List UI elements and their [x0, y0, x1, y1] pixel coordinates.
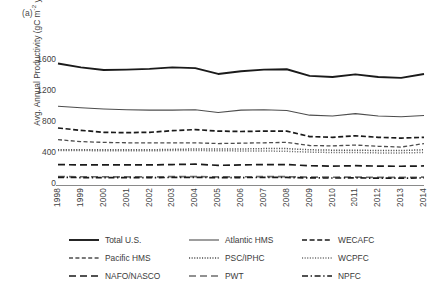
legend-label: Atlantic HMS: [225, 235, 273, 245]
legend-line-swatch: [68, 253, 100, 263]
chart-legend: Total U.S.Atlantic HMSWECAFCPacific HMSP…: [68, 231, 420, 285]
legend-line-swatch: [188, 253, 220, 263]
legend-label: WCPFC: [338, 253, 369, 263]
legend-item-npfc[interactable]: NPFC: [301, 271, 411, 281]
legend-label: Pacific HMS: [105, 253, 151, 263]
legend-line-swatch: [301, 271, 333, 281]
legend-label: NPFC: [338, 271, 361, 281]
legend-item-nafo-nasco[interactable]: NAFO/NASCO: [68, 271, 188, 281]
legend-item-total-u-s[interactable]: Total U.S.: [68, 235, 188, 245]
legend-line-swatch: [188, 235, 220, 245]
series-line-wecafc: [58, 128, 424, 138]
legend-item-wcpfc[interactable]: WCPFC: [301, 253, 411, 263]
legend-label: PWT: [225, 271, 244, 281]
series-line-total-u-s: [58, 63, 424, 77]
series-line-atlantic-hms: [58, 106, 424, 117]
legend-line-swatch: [68, 235, 100, 245]
legend-label: PSC/IPHC: [225, 253, 265, 263]
legend-item-wecafc[interactable]: WECAFC: [301, 235, 411, 245]
series-line-npfc: [58, 177, 424, 178]
legend-label: NAFO/NASCO: [105, 271, 160, 281]
legend-line-swatch: [188, 271, 220, 281]
legend-line-swatch: [68, 271, 100, 281]
legend-item-pwt[interactable]: PWT: [188, 271, 301, 281]
legend-label: WECAFC: [338, 235, 374, 245]
figure-panel-a: (a) Avg. Annual Productivity (gC m-2 y-1…: [0, 0, 431, 287]
legend-line-swatch: [301, 235, 333, 245]
legend-item-atlantic-hms[interactable]: Atlantic HMS: [188, 235, 301, 245]
legend-item-psc-iphc[interactable]: PSC/IPHC: [188, 253, 301, 263]
series-line-nafo-nasco: [58, 164, 424, 166]
series-line-pacific-hms: [58, 140, 424, 147]
legend-item-pacific-hms[interactable]: Pacific HMS: [68, 253, 188, 263]
legend-line-swatch: [301, 253, 333, 263]
series-line-wcpfc: [58, 151, 424, 153]
legend-label: Total U.S.: [105, 235, 141, 245]
